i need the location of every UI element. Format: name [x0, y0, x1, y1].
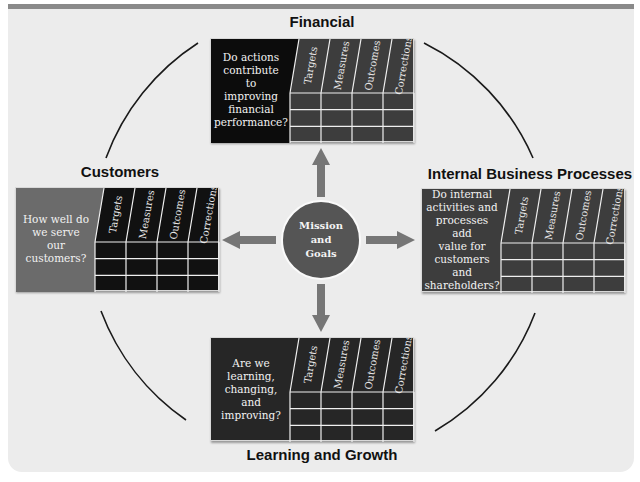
perspective-box-customers: TargetsMeasuresOutcomesCorrections How w…	[15, 187, 219, 291]
column-header-measures: Measures	[543, 190, 562, 241]
perspective-question: Are we learning, changing, and improving…	[211, 338, 291, 440]
column-header-corrections: Corrections	[604, 189, 625, 246]
center-line-3: Goals	[299, 247, 343, 261]
heading-financial: Financial	[262, 13, 382, 30]
column-header-measures: Measures	[137, 189, 156, 240]
arrow-down-icon	[312, 284, 330, 332]
column-header-outcomes: Outcomes	[574, 189, 594, 241]
arc-lower-right	[435, 313, 535, 431]
arrow-up-icon	[312, 148, 330, 197]
column-header-measures: Measures	[332, 339, 351, 390]
arc-upper-right	[424, 43, 533, 158]
column-header-targets: Targets	[302, 46, 319, 85]
column-header-corrections: Corrections	[393, 338, 414, 395]
mission-and-goals-label: Mission and Goals	[282, 201, 360, 279]
center-line-2: and	[299, 233, 343, 247]
column-header-corrections: Corrections	[393, 39, 414, 96]
center-line-1: Mission	[299, 219, 343, 233]
column-header-targets: Targets	[513, 196, 530, 235]
column-header-outcomes: Outcomes	[168, 188, 188, 240]
perspective-question: Do actions contribute to improving finan…	[211, 39, 291, 141]
arc-lower-left	[101, 311, 186, 420]
column-header-outcomes: Outcomes	[363, 338, 383, 390]
heading-internal-business-processes: Internal Business Processes	[425, 165, 635, 182]
column-header-corrections: Corrections	[198, 188, 219, 245]
column-header-measures: Measures	[332, 40, 351, 91]
arrow-right-icon	[366, 231, 415, 249]
column-header-targets: Targets	[302, 345, 319, 384]
perspective-question: How well do we serve our customers?	[16, 188, 96, 290]
arc-upper-left	[106, 43, 198, 158]
arrow-left-icon	[222, 231, 276, 249]
perspective-box-internal-business-processes: TargetsMeasuresOutcomesCorrections Do in…	[421, 188, 625, 292]
column-header-outcomes: Outcomes	[363, 39, 383, 91]
heading-learning-and-growth: Learning and Growth	[242, 446, 402, 463]
perspective-question: Do internal activities and processes add…	[422, 189, 502, 291]
heading-customers: Customers	[60, 163, 180, 180]
column-header-targets: Targets	[107, 195, 124, 234]
perspective-box-financial: TargetsMeasuresOutcomesCorrections Do ac…	[210, 38, 414, 142]
perspective-box-learning-and-growth: TargetsMeasuresOutcomesCorrections Are w…	[210, 337, 414, 441]
